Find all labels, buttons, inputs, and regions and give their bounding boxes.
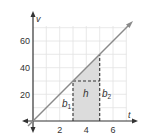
label-b2-sub: 2 — [108, 93, 112, 100]
y-axis-label: v — [36, 14, 41, 24]
x-axis-arrow-icon — [132, 119, 138, 124]
velocity-time-diagram: v t 60 40 20 2 4 6 h b2 b1 — [0, 0, 146, 139]
y-axis-arrow-icon — [31, 11, 36, 17]
y-tick-20: 20 — [20, 90, 30, 100]
label-b2: b2 — [102, 88, 112, 100]
y-tick-60: 60 — [20, 36, 30, 46]
y-tick-40: 40 — [20, 63, 30, 73]
x-tick-4: 4 — [84, 125, 89, 135]
x-axis-label: t — [128, 110, 131, 120]
x-tick-2: 2 — [57, 125, 62, 135]
x-axis-left-arrow-icon — [22, 119, 28, 124]
y-axis-down-arrow-icon — [31, 127, 36, 133]
label-b1: b1 — [62, 98, 72, 110]
label-b1-sub: 1 — [68, 103, 72, 110]
label-h: h — [83, 88, 89, 99]
x-tick-6: 6 — [110, 125, 115, 135]
